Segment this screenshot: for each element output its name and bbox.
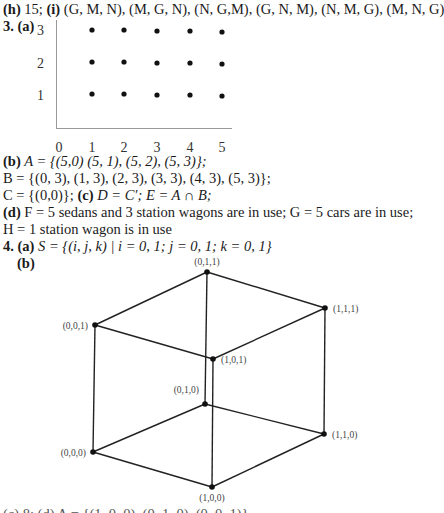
- label-110: (1,1,0): [332, 430, 357, 441]
- cube-edges: [93, 272, 325, 487]
- answer-4c-4d-text: (c) 8; (d) A = {(1, 0, 0), (0, 1, 0), (0…: [3, 506, 249, 513]
- label-000: (0,0,0): [61, 448, 86, 459]
- cube-vertices: [90, 269, 328, 490]
- label-010: (0,1,0): [174, 385, 199, 396]
- label-001: (0,0,1): [63, 321, 88, 332]
- label-111: (1,1,1): [333, 304, 358, 315]
- cube-vertex-labels: (0,1,1) (0,0,1) (1,1,1) (1,0,1) (0,1,0) …: [61, 257, 359, 504]
- answer-4c-4d-cut: (c) 8; (d) A = {(1, 0, 0), (0, 1, 0), (0…: [3, 506, 249, 513]
- label-101: (1,0,1): [221, 355, 246, 366]
- label-011: (0,1,1): [194, 257, 219, 268]
- label-100: (1,0,0): [199, 493, 224, 504]
